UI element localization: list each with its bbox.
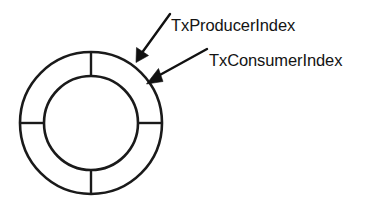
callout-label-producer: TxProducerIndex (171, 17, 295, 34)
callout-consumer-arrow (147, 49, 208, 84)
consumer-leader-line (158, 49, 207, 76)
producer-arrow-head (136, 48, 149, 63)
diagram-canvas: TxProducerIndex TxConsumerIndex (0, 0, 377, 215)
callout-producer-arrow (136, 14, 170, 63)
ring-group (20, 52, 162, 194)
consumer-arrow-head (147, 69, 164, 85)
callout-label-consumer: TxConsumerIndex (209, 52, 342, 69)
producer-leader-line (143, 14, 171, 52)
ring-inner-circle (44, 76, 138, 170)
